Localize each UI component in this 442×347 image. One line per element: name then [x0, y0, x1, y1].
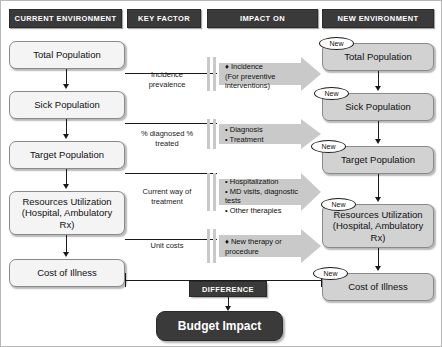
connector-line — [378, 174, 379, 198]
connector-arrow — [63, 84, 69, 89]
new-badge-total-population: New — [319, 37, 354, 50]
connector-line — [66, 119, 67, 135]
current-box-total-population: Total Population — [9, 41, 125, 69]
column-header-new-environment: NEW ENVIRONMENT — [322, 9, 434, 28]
connector-arrow — [375, 86, 381, 91]
connector-line — [66, 69, 67, 85]
connector-arrow — [63, 184, 69, 189]
key-factor-incidence-prevalence: Incidence prevalence — [132, 70, 202, 89]
connector-line — [66, 235, 67, 253]
key-factor-diagnosed-treated: % diagnosed % treated — [132, 129, 202, 148]
impact-text-resources: • Hospitalization • MD visits, diagnosti… — [225, 177, 301, 215]
budget-impact-diagram: CURRENT ENVIRONMENT KEY FACTOR IMPACT ON… — [0, 0, 442, 347]
connector-arrow — [375, 197, 381, 202]
impact-bar — [207, 57, 210, 91]
budget-impact-result: Budget Impact — [156, 311, 283, 341]
column-header-key-factor: KEY FACTOR — [127, 9, 201, 28]
connector-line — [378, 71, 379, 87]
current-box-cost-of-illness: Cost of Illness — [9, 259, 125, 287]
connector-line — [66, 169, 67, 185]
new-badge-target-population: New — [311, 140, 346, 153]
branch-line — [125, 239, 217, 240]
impact-text-diagnosis-treatment: • Diagnosis • Treatment — [225, 125, 301, 144]
difference-bar: DIFFERENCE — [189, 281, 267, 297]
impact-bar — [213, 229, 216, 263]
connector-arrow — [375, 266, 381, 271]
current-box-target-population: Target Population — [9, 141, 125, 169]
connector-arrow — [375, 139, 381, 144]
connector-arrow — [63, 134, 69, 139]
impact-bar — [213, 57, 216, 91]
key-factor-current-way-of-treatment: Current way of treatment — [132, 187, 202, 206]
impact-bar — [213, 119, 216, 149]
impact-bar — [207, 173, 210, 211]
key-factor-unit-costs: Unit costs — [132, 241, 202, 251]
current-box-resources-utilization: Resources Utilization (Hospital, Ambulat… — [9, 191, 125, 235]
new-badge-resources-utilization: New — [321, 198, 356, 211]
new-badge-cost-of-illness: New — [313, 267, 348, 280]
impact-bar — [213, 173, 216, 211]
connector-line — [378, 121, 379, 140]
new-badge-sick-population: New — [314, 87, 349, 100]
column-header-impact-on: IMPACT ON — [207, 9, 318, 28]
connector-line — [378, 248, 379, 267]
impact-bar — [207, 229, 210, 263]
column-header-current-environment: CURRENT ENVIRONMENT — [9, 9, 122, 28]
current-box-sick-population: Sick Population — [9, 91, 125, 119]
branch-line — [125, 123, 217, 124]
connector-arrow — [63, 252, 69, 257]
impact-bar — [207, 119, 210, 149]
branch-line — [125, 173, 217, 174]
impact-text-incidence: ♦ Incidence (For preventive intervention… — [225, 62, 301, 91]
impact-text-new-therapy: ♦ New therapy or procedure — [225, 237, 301, 256]
